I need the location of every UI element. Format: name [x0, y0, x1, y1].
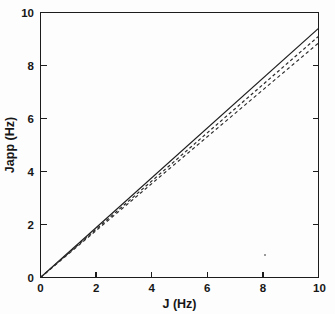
axes-box: [41, 13, 319, 278]
scan-speck-artifact: [264, 254, 266, 256]
series-dashed-upper-line: [41, 36, 319, 277]
y-tick-label-4: 8: [28, 60, 35, 72]
x-tick-label-3: 6: [204, 282, 210, 294]
x-tick-label-5: 10: [313, 282, 326, 294]
series-dashed-lower-line: [41, 43, 319, 278]
y-axis-title: Japp (Hz): [3, 117, 17, 173]
y-tick-label-3: 6: [28, 113, 34, 125]
line-chart-canvas: 0 2 4 6 8 10 0 2 4 6 8 10 J (Hz) Japp (H…: [0, 0, 335, 314]
x-tick-label-4: 8: [260, 282, 267, 294]
x-axis-title: J (Hz): [162, 297, 196, 311]
y-tick-label-1: 2: [28, 219, 34, 231]
y-tick-label-2: 4: [28, 166, 35, 178]
x-tick-label-1: 2: [93, 282, 99, 294]
y-tick-labels: 0 2 4 6 8 10: [21, 7, 34, 284]
series-solid-line: [41, 28, 319, 277]
x-tick-marks: [41, 272, 319, 278]
y-tick-marks-right: [313, 66, 319, 225]
y-tick-label-0: 0: [28, 272, 34, 284]
x-tick-label-0: 0: [37, 282, 43, 294]
data-series-group: [41, 28, 319, 277]
chart-figure: 0 2 4 6 8 10 0 2 4 6 8 10 J (Hz) Japp (H…: [0, 0, 335, 314]
x-tick-label-2: 4: [148, 282, 155, 294]
y-tick-label-5: 10: [21, 7, 34, 19]
plot-frame: [41, 13, 319, 278]
x-tick-labels: 0 2 4 6 8 10: [37, 282, 326, 294]
y-tick-marks: [41, 13, 47, 278]
